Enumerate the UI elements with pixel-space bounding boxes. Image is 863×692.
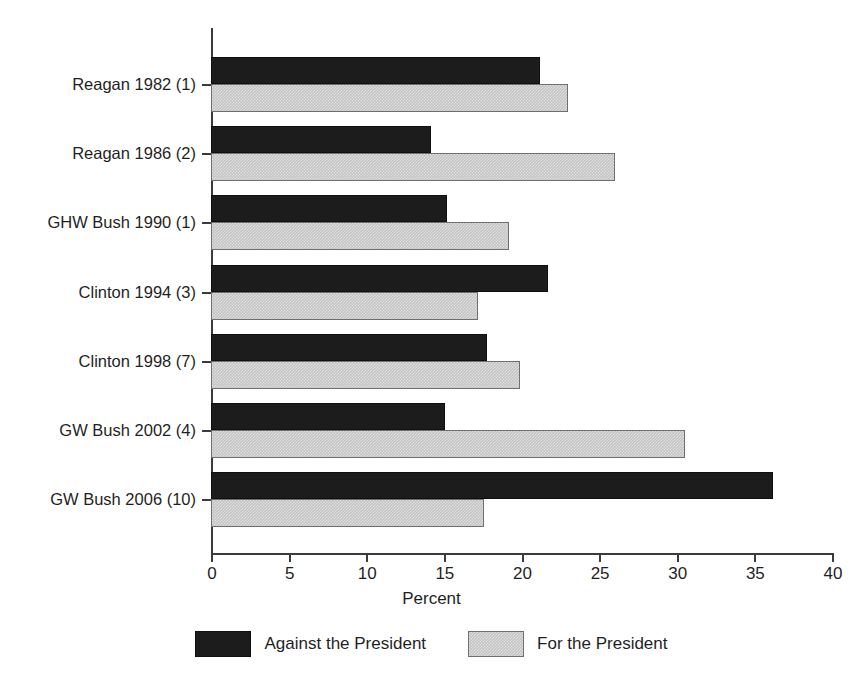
y-axis-label: Clinton 1994 (3)	[79, 283, 196, 301]
y-axis-tick	[202, 292, 211, 294]
x-axis-tick	[289, 553, 291, 562]
bar-against-the-president	[211, 195, 447, 222]
y-axis-label: GHW Bush 1990 (1)	[47, 213, 196, 231]
x-axis-tick-label: 35	[746, 564, 765, 584]
bar-for-the-president	[211, 222, 509, 250]
x-axis-tick	[522, 553, 524, 562]
y-axis-label: Reagan 1986 (2)	[72, 144, 196, 162]
legend-light-swatch	[468, 631, 524, 657]
x-axis-tick-label: 15	[435, 564, 454, 584]
x-axis-tick	[444, 553, 446, 562]
legend-item: Against the President	[195, 631, 426, 657]
y-axis-label: Reagan 1982 (1)	[72, 75, 196, 93]
x-axis-tick	[366, 553, 368, 562]
y-axis-label: GW Bush 2006 (10)	[50, 490, 196, 508]
bar-against-the-president	[211, 57, 540, 84]
x-axis-tick-label: 0	[207, 564, 216, 584]
x-axis-tick-label: 40	[824, 564, 843, 584]
bar-for-the-president	[211, 153, 615, 181]
y-axis-tick	[202, 430, 211, 432]
legend-item: For the President	[468, 631, 667, 657]
x-axis-tick	[754, 553, 756, 562]
bar-for-the-president	[211, 292, 478, 320]
x-axis-tick-label: 25	[591, 564, 610, 584]
legend-label: For the President	[537, 634, 667, 654]
x-axis-tick-label: 5	[285, 564, 294, 584]
bar-for-the-president	[211, 430, 685, 458]
bar-against-the-president	[211, 403, 445, 430]
bar-against-the-president	[211, 334, 487, 361]
chart-legend: Against the PresidentFor the President	[0, 631, 863, 657]
x-axis-title: Percent	[0, 589, 863, 609]
legend-dark-swatch	[195, 631, 251, 657]
bar-against-the-president	[211, 472, 773, 499]
x-axis-tick-label: 10	[358, 564, 377, 584]
x-axis-tick-label: 20	[513, 564, 532, 584]
bar-against-the-president	[211, 126, 431, 153]
legend-label: Against the President	[264, 634, 426, 654]
bar-for-the-president	[211, 84, 568, 112]
y-axis-tick	[202, 222, 211, 224]
bar-against-the-president	[211, 265, 548, 292]
y-axis-label: Clinton 1998 (7)	[79, 352, 196, 370]
y-axis-tick	[202, 361, 211, 363]
bar-for-the-president	[211, 361, 520, 389]
y-axis-tick	[202, 153, 211, 155]
y-axis-tick	[202, 499, 211, 501]
x-axis-tick	[211, 553, 213, 562]
bar-chart: Reagan 1982 (1)Reagan 1986 (2)GHW Bush 1…	[0, 0, 863, 692]
y-axis-label: GW Bush 2002 (4)	[59, 421, 196, 439]
x-axis-tick	[832, 553, 834, 562]
x-axis-tick	[599, 553, 601, 562]
y-axis-tick	[202, 84, 211, 86]
plot-area	[211, 28, 832, 553]
x-axis-tick	[677, 553, 679, 562]
bar-for-the-president	[211, 499, 484, 527]
x-axis-tick-label: 30	[668, 564, 687, 584]
